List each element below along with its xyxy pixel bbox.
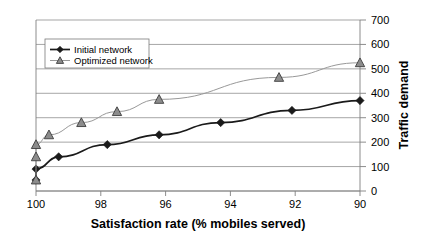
y-tick-label-400: 400 [371,87,389,99]
x-tick-label-100: 100 [27,198,45,210]
y-tick-label-200: 200 [371,136,389,148]
x-axis-title: Satisfaction rate (% mobiles served) [91,217,306,231]
legend-label-optimized-network: Optimized network [74,55,153,66]
traffic-demand-line-chart: 700 600 500 400 300 200 100 0 100 98 96 … [0,0,421,242]
x-tick-label-98: 98 [95,198,107,210]
x-tick-label-94: 94 [224,198,236,210]
x-tick-label-96: 96 [159,198,171,210]
y-axis-tick-labels: 700 600 500 400 300 200 100 0 [371,14,389,197]
x-axis-tick-labels: 100 98 96 94 92 90 [27,198,366,210]
chart-legend: Initial network Optimized network [45,39,153,68]
y-tick-label-300: 300 [371,112,389,124]
y-tick-label-600: 600 [371,38,389,50]
x-axis-tick-marks [36,191,360,196]
y-axis-title: Traffic demand [397,61,411,150]
y-tick-label-100: 100 [371,161,389,173]
chart-figure: 700 600 500 400 300 200 100 0 100 98 96 … [0,0,421,242]
y-axis-tick-marks [360,20,366,191]
y-tick-label-500: 500 [371,63,389,75]
legend-label-initial-network: Initial network [74,44,132,55]
x-tick-label-90: 90 [354,198,366,210]
y-tick-label-0: 0 [371,185,377,197]
x-tick-label-92: 92 [289,198,301,210]
y-tick-label-700: 700 [371,14,389,26]
